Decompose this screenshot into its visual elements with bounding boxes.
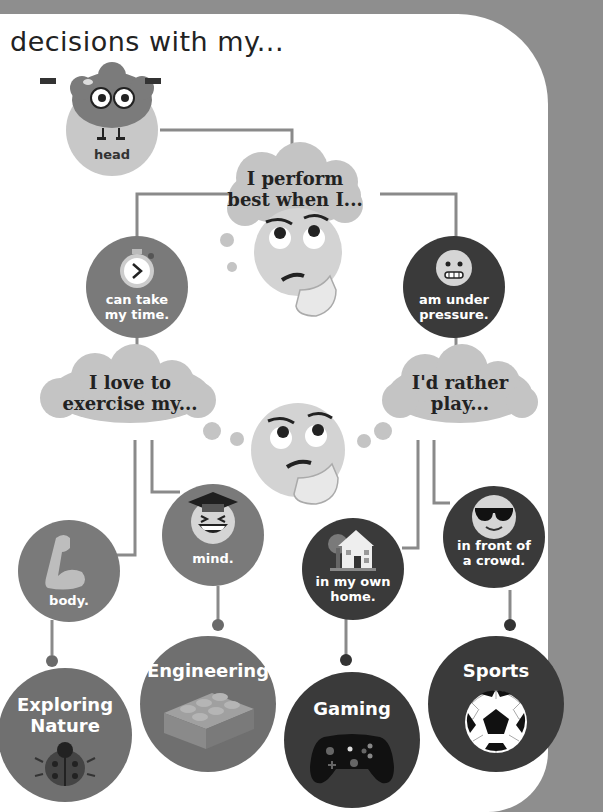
thinking-face-icon-2 — [251, 403, 345, 504]
graduate-laughing-face-icon — [186, 488, 240, 550]
node-mind[interactable]: mind. — [162, 484, 264, 586]
ladybug-icon — [33, 740, 97, 786]
question-line-2: exercise my... — [50, 393, 210, 414]
label-line-2: home. — [316, 589, 391, 604]
house-icon — [326, 526, 380, 574]
question-line-2: best when I... — [225, 189, 365, 210]
label-line-1: in my own — [316, 574, 391, 589]
node-body[interactable]: body. — [18, 520, 120, 622]
node-head-label: head — [94, 147, 130, 162]
question-line-1: I love to — [50, 372, 210, 393]
node-head[interactable]: head — [66, 84, 158, 176]
soccer-ball-icon — [463, 689, 529, 755]
outcome-engineering[interactable]: Engineering — [140, 636, 276, 772]
label-line-2: a crowd. — [457, 553, 531, 568]
outcome-label: Gaming — [313, 698, 391, 719]
node-mind-label: mind. — [192, 551, 234, 566]
label-line-1: can take — [105, 292, 170, 307]
node-body-label: body. — [49, 593, 89, 608]
node-can-take-my-time[interactable]: can take my time. — [86, 236, 188, 338]
label-line-1: am under — [419, 292, 489, 307]
question-line-1: I'd rather — [390, 372, 530, 393]
outcome-sports[interactable]: Sports — [428, 636, 564, 772]
game-controller-icon — [310, 731, 394, 785]
node-am-under-pressure[interactable]: am under pressure. — [403, 236, 505, 338]
lego-brick-icon — [160, 687, 256, 751]
grimacing-face-icon — [434, 248, 474, 288]
stopwatch-icon — [116, 248, 158, 290]
label-line-1: in front of — [457, 538, 531, 553]
flexed-bicep-icon — [44, 532, 94, 590]
question-line-1: I perform — [225, 168, 365, 189]
node-in-front-of-a-crowd[interactable]: in front of a crowd. — [443, 486, 545, 588]
label-line-2: my time. — [105, 307, 170, 322]
question-perform-best: I perform best when I... — [225, 168, 365, 210]
outcome-line-2: Nature — [17, 715, 113, 736]
outcome-exploring-nature[interactable]: Exploring Nature — [0, 668, 132, 802]
node-in-my-own-home[interactable]: in my own home. — [302, 518, 404, 620]
outcome-gaming[interactable]: Gaming — [284, 672, 420, 808]
outcome-line-1: Exploring — [17, 694, 113, 715]
thinking-face-icon-1 — [254, 208, 342, 316]
outcome-label: Engineering — [147, 660, 269, 681]
question-line-2: play... — [390, 393, 530, 414]
sunglasses-face-icon — [471, 494, 517, 540]
label-line-2: pressure. — [419, 307, 489, 322]
question-love-to-exercise: I love to exercise my... — [50, 372, 210, 414]
outcome-label: Sports — [463, 660, 529, 681]
question-rather-play: I'd rather play... — [390, 372, 530, 414]
